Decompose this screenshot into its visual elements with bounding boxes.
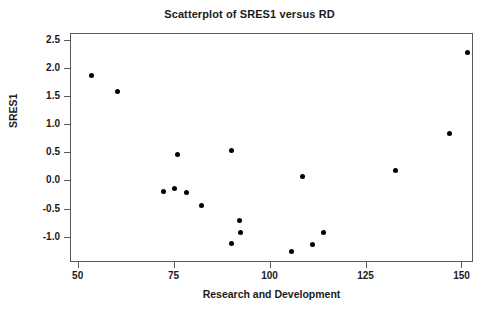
- x-tick-mark: [270, 262, 271, 268]
- data-point: [447, 131, 452, 136]
- y-tick-label: 0.0: [0, 174, 60, 185]
- y-tick-mark: [64, 68, 70, 69]
- data-point: [89, 73, 94, 78]
- data-point: [289, 249, 294, 254]
- x-tick-label: 50: [58, 270, 98, 281]
- y-tick-label: 0.5: [0, 146, 60, 157]
- y-tick-mark: [64, 152, 70, 153]
- x-tick-mark: [78, 262, 79, 268]
- y-tick-mark: [64, 124, 70, 125]
- x-tick-label: 100: [250, 270, 290, 281]
- x-tick-mark: [461, 262, 462, 268]
- y-tick-mark: [64, 209, 70, 210]
- scatterplot-figure: Scatterplot of SRES1 versus RD SRES1 2.5…: [0, 0, 499, 316]
- data-point: [199, 203, 204, 208]
- y-tick-label: 2.0: [0, 62, 60, 73]
- y-tick-label: 1.0: [0, 118, 60, 129]
- x-tick-label: 150: [441, 270, 481, 281]
- plot-area: [70, 33, 473, 262]
- y-tick-label: -0.5: [0, 203, 60, 214]
- data-point: [115, 89, 120, 94]
- y-tick-mark: [64, 40, 70, 41]
- data-point: [175, 152, 180, 157]
- y-tick-label: -1.0: [0, 231, 60, 242]
- y-tick-mark: [64, 237, 70, 238]
- data-point: [237, 218, 242, 223]
- y-tick-label: 1.5: [0, 90, 60, 101]
- y-tick-label: 2.5: [0, 34, 60, 45]
- data-point: [172, 186, 177, 191]
- y-tick-mark: [64, 180, 70, 181]
- data-point: [310, 242, 315, 247]
- y-tick-mark: [64, 96, 70, 97]
- data-point: [229, 148, 234, 153]
- data-point: [321, 230, 326, 235]
- data-point: [393, 168, 398, 173]
- data-point: [465, 50, 470, 55]
- data-point: [184, 190, 189, 195]
- x-tick-label: 75: [154, 270, 194, 281]
- x-tick-mark: [174, 262, 175, 268]
- data-point: [300, 174, 305, 179]
- x-axis-title: Research and Development: [70, 288, 473, 300]
- chart-title: Scatterplot of SRES1 versus RD: [0, 8, 499, 20]
- data-point: [161, 189, 166, 194]
- x-tick-mark: [366, 262, 367, 268]
- data-point: [238, 230, 243, 235]
- x-tick-label: 125: [346, 270, 386, 281]
- data-point: [229, 241, 234, 246]
